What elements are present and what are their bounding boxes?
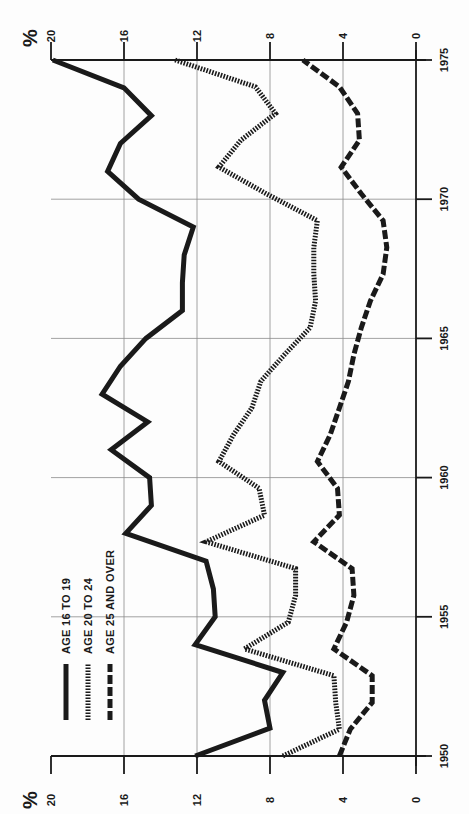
- value-tick-label-bottom: 16: [118, 794, 130, 806]
- value-tick-label-bottom: 8: [264, 797, 276, 803]
- year-tick-label: 1960: [438, 465, 450, 489]
- value-tick-label-bottom: 12: [191, 794, 203, 806]
- year-tick-label: 1970: [438, 187, 450, 211]
- legend-label: AGE 20 TO 24: [82, 577, 94, 654]
- legend: AGE 16 TO 19AGE 20 TO 24AGE 25 AND OVER: [60, 550, 116, 720]
- percent-label-bottom: %: [19, 791, 41, 809]
- value-tick-label-bottom: 0: [410, 797, 422, 803]
- year-tick-label: 1975: [438, 48, 450, 72]
- value-tick-label-top: 8: [264, 33, 276, 39]
- value-tick-label-top: 20: [45, 30, 57, 42]
- series-line-dashed: [303, 60, 387, 756]
- unemployment-by-age-chart: 202016161212884400%%19501955196019651970…: [0, 0, 469, 814]
- value-tick-label-bottom: 20: [45, 794, 57, 806]
- value-tick-label-top: 16: [118, 30, 130, 42]
- value-tick-label-top: 4: [337, 32, 349, 39]
- year-tick-label: 1950: [438, 744, 450, 768]
- percent-label-top: %: [19, 29, 41, 47]
- data-series: [53, 60, 387, 756]
- value-tick-label-top: 0: [410, 33, 422, 39]
- legend-label: AGE 25 AND OVER: [104, 550, 116, 654]
- year-tick-label: 1965: [438, 326, 450, 350]
- value-tick-label-bottom: 4: [337, 796, 349, 803]
- year-tick-label: 1955: [438, 605, 450, 629]
- series-line-dotted: [175, 60, 339, 756]
- axes: 202016161212884400%%19501955196019651970…: [19, 29, 450, 809]
- value-tick-label-top: 12: [191, 30, 203, 42]
- legend-label: AGE 16 TO 19: [60, 578, 72, 654]
